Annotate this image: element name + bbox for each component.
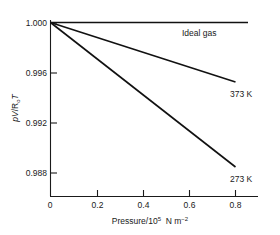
- x-axis-title-unit-exponent: −2: [181, 216, 189, 222]
- y-axis-title-t: T: [10, 93, 20, 99]
- x-axis-title: Pressure/105 N m−2: [112, 216, 189, 226]
- series-label-373k: 373 K: [230, 89, 253, 99]
- x-tick-label-2: 0.4: [138, 200, 150, 210]
- y-tick-label-1: 0.996: [26, 68, 48, 78]
- x-tick-label-3: 0.6: [184, 200, 196, 210]
- x-tick-label-1: 0.2: [92, 200, 104, 210]
- x-axis-title-main: Pressure/10: [112, 216, 158, 226]
- y-tick-label-0: 1.000: [26, 18, 48, 28]
- y-tick-label-3: 0.988: [26, 168, 48, 178]
- chart-plot-area: 1.000 0.996 0.992 0.988 0 0.2 0.4 0.6 0.…: [0, 0, 280, 235]
- chart-figure: 1.000 0.996 0.992 0.988 0 0.2 0.4 0.6 0.…: [0, 0, 280, 235]
- x-tick-label-0: 0: [48, 200, 53, 210]
- x-tick-label-4: 0.8: [230, 200, 242, 210]
- y-axis-title-slash: /R: [10, 103, 20, 112]
- series-label-273k: 273 K: [230, 174, 253, 184]
- x-axis-title-unit: N m: [166, 216, 182, 226]
- series-label-ideal-gas: Ideal gas: [182, 28, 217, 38]
- y-tick-label-2: 0.992: [26, 118, 48, 128]
- series-line-273k: [51, 23, 236, 168]
- y-axis-title: pV/RoT: [10, 93, 21, 122]
